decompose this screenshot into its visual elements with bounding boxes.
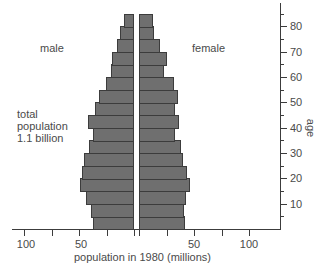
- x-tick-female-75: [222, 229, 223, 236]
- y-minor-tick-45: [280, 115, 284, 116]
- y-axis-title: age: [305, 119, 317, 137]
- total-population-label-line2: population: [17, 120, 68, 132]
- y-major-tick-40: [280, 128, 287, 129]
- female-bar-55-59: [139, 77, 174, 91]
- male-bar-5-9: [91, 204, 134, 218]
- x-tick-label-male-50: 50: [75, 238, 87, 250]
- female-bar-50-54: [139, 90, 178, 104]
- male-bar-10-14: [86, 191, 134, 205]
- female-bar-10-14: [139, 191, 186, 205]
- total-population-label-line1: total: [17, 108, 38, 120]
- male-bar-80-84: [124, 14, 134, 28]
- female-label: female: [192, 42, 225, 54]
- total-population-label-line3: 1.1 billion: [17, 132, 63, 144]
- y-tick-label-60: 60: [290, 71, 302, 83]
- female-bar-40-44: [139, 115, 179, 129]
- y-major-tick-80: [280, 26, 287, 27]
- x-tick-female-100: [249, 229, 250, 236]
- y-tick-label-20: 20: [290, 172, 302, 184]
- y-axis-line: [280, 3, 281, 230]
- x-tick-female-50: [194, 229, 195, 236]
- population-pyramid-chart: male female total population 1.1 billion…: [0, 0, 326, 269]
- x-tick-male-25: [107, 229, 108, 236]
- male-bar-50-54: [99, 90, 134, 104]
- male-bar-0-4: [93, 216, 134, 230]
- male-bar-70-74: [117, 39, 134, 53]
- male-bar-45-49: [95, 102, 134, 116]
- male-label: male: [40, 42, 64, 54]
- y-tick-label-70: 70: [290, 46, 302, 58]
- female-bar-65-69: [139, 52, 167, 66]
- female-bar-75-79: [139, 26, 154, 40]
- male-bar-20-24: [82, 166, 134, 180]
- y-major-tick-30: [280, 153, 287, 154]
- male-bar-30-34: [89, 140, 134, 154]
- male-bar-35-39: [93, 128, 134, 142]
- y-minor-tick-65: [280, 64, 284, 65]
- x-tick-label-female-50: 50: [188, 238, 200, 250]
- x-tick-male-50: [79, 229, 80, 236]
- x-tick-male-0: [134, 229, 135, 236]
- y-minor-tick-5: [280, 216, 284, 217]
- female-bar-5-9: [139, 204, 184, 218]
- y-tick-label-80: 80: [290, 20, 302, 32]
- male-bar-15-19: [80, 178, 134, 192]
- x-tick-label-male-100: 100: [17, 238, 35, 250]
- y-tick-label-50: 50: [290, 96, 302, 108]
- female-bar-0-4: [139, 216, 185, 230]
- x-tick-male-100: [24, 229, 25, 236]
- female-bar-35-39: [139, 128, 175, 142]
- y-major-tick-60: [280, 77, 287, 78]
- y-tick-label-10: 10: [290, 198, 302, 210]
- female-bar-70-74: [139, 39, 160, 53]
- y-tick-label-30: 30: [290, 147, 302, 159]
- female-bar-60-64: [139, 64, 164, 78]
- y-minor-tick-25: [280, 166, 284, 167]
- y-major-tick-70: [280, 52, 287, 53]
- male-bar-40-44: [88, 115, 134, 129]
- y-major-tick-50: [280, 102, 287, 103]
- y-minor-tick-75: [280, 39, 284, 40]
- male-bar-65-69: [112, 52, 134, 66]
- female-bar-15-19: [139, 178, 190, 192]
- female-bar-30-34: [139, 140, 181, 154]
- y-minor-tick-35: [280, 140, 284, 141]
- x-axis-title: population in 1980 (millions): [74, 251, 211, 263]
- y-major-tick-10: [280, 204, 287, 205]
- x-tick-female-0: [139, 229, 140, 236]
- y-minor-tick-55: [280, 90, 284, 91]
- x-tick-label-female-100: 100: [240, 238, 258, 250]
- female-bar-45-49: [139, 102, 175, 116]
- female-bar-80-84: [139, 14, 153, 28]
- x-tick-female-25: [167, 229, 168, 236]
- y-minor-tick-15: [280, 191, 284, 192]
- male-bar-55-59: [106, 77, 134, 91]
- female-bar-20-24: [139, 166, 187, 180]
- female-bar-25-29: [139, 153, 183, 167]
- y-major-tick-20: [280, 178, 287, 179]
- male-bar-75-79: [120, 26, 134, 40]
- male-bar-60-64: [111, 64, 134, 78]
- y-tick-label-40: 40: [290, 122, 302, 134]
- y-minor-tick-85: [280, 14, 284, 15]
- x-tick-male-75: [52, 229, 53, 236]
- male-bar-25-29: [84, 153, 134, 167]
